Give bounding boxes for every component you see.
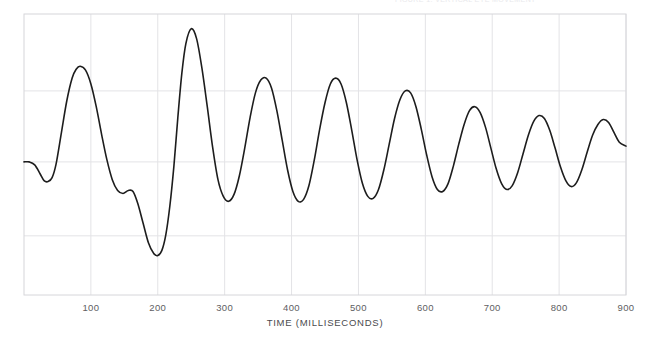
plot-frame xyxy=(24,14,626,295)
x-tick-label: 500 xyxy=(350,302,367,313)
x-tick-label: 300 xyxy=(216,302,233,313)
x-axis-tick-labels: 100200300400500600700800900 xyxy=(82,302,634,313)
x-tick-label: 900 xyxy=(618,302,635,313)
x-tick-label: 200 xyxy=(149,302,166,313)
x-tick-label: 100 xyxy=(82,302,99,313)
waveform-trace xyxy=(24,29,626,256)
x-axis-title: TIME (MILLISECONDS) xyxy=(267,317,384,328)
x-tick-label: 800 xyxy=(551,302,568,313)
clipped-figure-caption: FIGURE 1. VERTICAL EYE MOVEMENT xyxy=(395,0,640,5)
grid-lines xyxy=(24,14,626,295)
x-tick-label: 600 xyxy=(417,302,434,313)
x-tick-label: 400 xyxy=(283,302,300,313)
plot-canvas: 100200300400500600700800900 TIME (MILLIS… xyxy=(0,0,658,340)
x-tick-label: 700 xyxy=(484,302,501,313)
eeg-waveform-chart: FIGURE 1. VERTICAL EYE MOVEMENT 10020030… xyxy=(0,0,658,340)
